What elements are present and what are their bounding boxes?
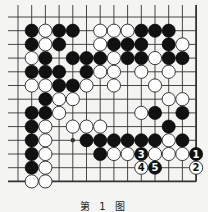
- black-stone: [135, 52, 148, 65]
- black-stone: [25, 120, 38, 133]
- black-stone: [66, 24, 79, 37]
- black-stone: [25, 147, 38, 160]
- black-stone: [107, 134, 120, 147]
- move-number-label: 3: [138, 149, 145, 160]
- white-stone: [25, 175, 38, 188]
- white-stone: [107, 24, 120, 37]
- white-stone: [148, 79, 161, 92]
- white-stone: [162, 134, 175, 147]
- white-stone: [25, 79, 38, 92]
- black-stone: [148, 106, 161, 119]
- black-stone: [162, 120, 175, 133]
- go-board: 12345: [0, 0, 208, 196]
- black-stone: [39, 93, 52, 106]
- move-number-label: 2: [193, 162, 200, 173]
- white-stone: [94, 65, 107, 78]
- move-1-black-stone: 1: [190, 147, 203, 160]
- black-stone: [121, 134, 134, 147]
- white-stone: [94, 24, 107, 37]
- black-stone: [25, 106, 38, 119]
- black-stone: [176, 134, 189, 147]
- black-stone: [94, 52, 107, 65]
- black-stone: [53, 24, 66, 37]
- black-stone: [25, 161, 38, 174]
- move-3-black-stone: 3: [135, 147, 148, 160]
- black-stone: [80, 134, 93, 147]
- black-stone: [25, 134, 38, 147]
- white-stone: [39, 147, 52, 160]
- black-stone: [80, 52, 93, 65]
- black-stone: [53, 79, 66, 92]
- white-stone: [39, 120, 52, 133]
- white-stone: [39, 79, 52, 92]
- white-stone: [107, 52, 120, 65]
- white-stone: [176, 93, 189, 106]
- white-stone: [94, 38, 107, 51]
- black-stone: [66, 52, 79, 65]
- move-4-white-stone: 4: [135, 161, 148, 174]
- white-stone: [66, 120, 79, 133]
- black-stone: [80, 65, 93, 78]
- black-stone: [25, 38, 38, 51]
- white-stone: [94, 120, 107, 133]
- black-stone: [135, 24, 148, 37]
- black-stone: [176, 106, 189, 119]
- white-stone: [107, 79, 120, 92]
- black-stone: [176, 52, 189, 65]
- white-stone: [80, 120, 93, 133]
- white-stone: [39, 161, 52, 174]
- white-stone: [176, 38, 189, 51]
- diagram-caption: 第 1 图: [0, 198, 208, 212]
- white-stone: [25, 52, 38, 65]
- black-stone: [148, 24, 161, 37]
- black-stone: [25, 24, 38, 37]
- move-number-label: 4: [138, 162, 145, 173]
- star-points: [71, 138, 75, 142]
- move-number-label: 5: [152, 162, 159, 173]
- move-2-white-stone: 2: [190, 161, 203, 174]
- white-stone: [121, 24, 134, 37]
- black-stone: [107, 38, 120, 51]
- white-stone: [80, 79, 93, 92]
- white-stone: [39, 24, 52, 37]
- white-stone: [39, 134, 52, 147]
- white-stone: [39, 175, 52, 188]
- black-stone: [162, 52, 175, 65]
- black-stone: [94, 147, 107, 160]
- star-point: [71, 138, 75, 142]
- black-stone: [53, 65, 66, 78]
- white-stone: [162, 65, 175, 78]
- white-stone: [176, 147, 189, 160]
- black-stone: [148, 134, 161, 147]
- white-stone: [121, 147, 134, 160]
- white-stone: [162, 93, 175, 106]
- white-stone: [135, 106, 148, 119]
- black-stone: [25, 65, 38, 78]
- white-stone: [135, 65, 148, 78]
- white-stone: [148, 52, 161, 65]
- black-stone: [39, 65, 52, 78]
- black-stone: [39, 106, 52, 119]
- white-stone: [162, 147, 175, 160]
- white-stone: [107, 65, 120, 78]
- white-stone: [53, 106, 66, 119]
- white-stone: [107, 147, 120, 160]
- move-number-label: 1: [193, 149, 200, 160]
- black-stone: [162, 38, 175, 51]
- black-stone: [53, 38, 66, 51]
- black-stone: [66, 79, 79, 92]
- black-stone: [135, 134, 148, 147]
- stones-layer: [25, 24, 189, 188]
- black-stone: [135, 38, 148, 51]
- black-stone: [121, 38, 134, 51]
- black-stone: [39, 52, 52, 65]
- black-stone: [121, 52, 134, 65]
- white-stone: [53, 93, 66, 106]
- white-stone: [148, 147, 161, 160]
- white-stone: [66, 93, 79, 106]
- black-stone: [162, 24, 175, 37]
- black-stone: [94, 134, 107, 147]
- white-stone: [39, 38, 52, 51]
- move-5-black-stone: 5: [148, 161, 161, 174]
